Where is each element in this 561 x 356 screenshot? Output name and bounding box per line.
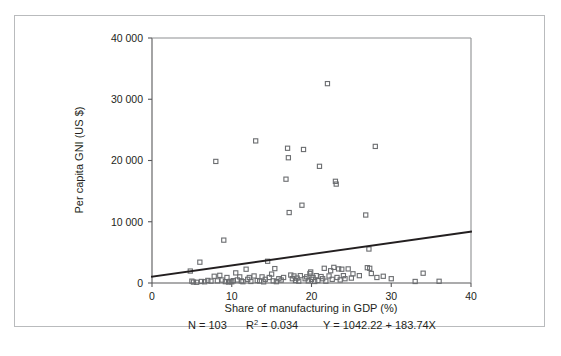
y-tick-label: 30 000 <box>111 93 143 105</box>
data-point <box>252 274 256 278</box>
figure-root: 010 00020 00030 00040 000 010203040 Per … <box>0 0 561 356</box>
data-point <box>222 238 226 242</box>
data-point <box>346 267 350 271</box>
data-point <box>351 272 355 276</box>
data-point <box>300 203 304 207</box>
data-point <box>273 267 277 271</box>
data-point <box>421 271 425 275</box>
y-tick-label: 10 000 <box>111 216 143 228</box>
data-point <box>244 267 248 271</box>
data-point <box>357 274 361 278</box>
data-point <box>369 271 373 275</box>
data-point <box>317 164 321 168</box>
scatter-chart: 010 00020 00030 00040 000 010203040 Per … <box>0 0 561 356</box>
caption-n: N = 103 <box>188 319 227 331</box>
data-point <box>325 82 329 86</box>
data-point <box>218 273 222 277</box>
data-point <box>198 260 202 264</box>
data-point <box>367 247 371 251</box>
data-point <box>287 210 291 214</box>
data-point <box>285 146 289 150</box>
x-tick-label: 0 <box>149 290 155 302</box>
data-point <box>373 144 377 148</box>
data-point <box>349 276 353 280</box>
data-point <box>212 274 216 278</box>
data-point <box>254 139 258 143</box>
data-point <box>389 277 393 281</box>
data-point <box>322 266 326 270</box>
caption-r-squared: R2 = 0.034 <box>246 318 298 332</box>
data-point <box>286 156 290 160</box>
y-axis-tick-labels: 010 00020 00030 00040 000 <box>111 32 143 289</box>
x-tick-label: 10 <box>226 290 238 302</box>
data-point <box>375 275 379 279</box>
y-axis-title: Per capita GNI (US $) <box>73 107 85 214</box>
x-tick-label: 30 <box>385 290 397 302</box>
x-tick-label: 20 <box>306 290 318 302</box>
plot-frame <box>152 38 471 283</box>
x-axis-title: Share of manufacturing in GDP (%) <box>225 302 398 314</box>
chart-caption: N = 103 R2 = 0.034 Y = 1042.22 + 183.74X <box>188 318 437 332</box>
data-point <box>364 213 368 217</box>
axis-ticks <box>148 38 471 287</box>
data-point <box>214 159 218 163</box>
data-point <box>284 177 288 181</box>
data-point <box>215 279 219 283</box>
plot-wrapper: 010 00020 00030 00040 000 010203040 Per … <box>0 0 561 356</box>
x-tick-label: 40 <box>465 290 477 302</box>
caption-equation: Y = 1042.22 + 183.74X <box>323 319 437 331</box>
y-tick-label: 0 <box>137 277 143 289</box>
data-point <box>381 274 385 278</box>
y-tick-label: 40 000 <box>111 32 143 44</box>
x-axis-tick-labels: 010203040 <box>149 290 477 302</box>
y-tick-label: 20 000 <box>111 154 143 166</box>
data-point <box>301 147 305 151</box>
